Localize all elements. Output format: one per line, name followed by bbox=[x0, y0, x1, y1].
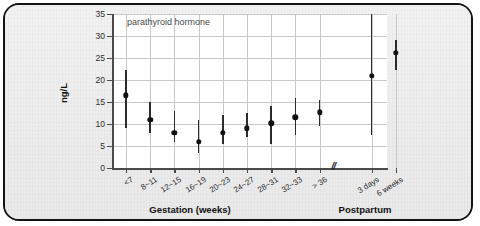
gridline-vertical bbox=[150, 14, 151, 168]
x-axis-tick-label: 6 weeks bbox=[375, 175, 405, 198]
x-axis-tick-label: 24~27 bbox=[232, 175, 256, 195]
gridline-horizontal bbox=[112, 58, 387, 59]
y-axis-tick bbox=[107, 58, 112, 59]
x-axis-tick bbox=[223, 168, 224, 173]
x-axis-tick-label: 20~23 bbox=[208, 175, 232, 195]
x-axis-tick bbox=[372, 168, 373, 173]
y-axis-tick-label: 5 bbox=[79, 141, 105, 151]
y-axis-line bbox=[112, 14, 114, 169]
y-axis-tick bbox=[107, 80, 112, 81]
gridline-horizontal bbox=[112, 146, 387, 147]
y-axis-tick bbox=[107, 146, 112, 147]
gridline-vertical bbox=[271, 14, 272, 168]
x-axis-title-gestation: Gestation (weeks) bbox=[149, 204, 230, 215]
x-axis-tick bbox=[247, 168, 248, 173]
x-axis-tick-label: <7 bbox=[122, 175, 135, 187]
y-axis-tick-label: 10 bbox=[79, 119, 105, 129]
y-axis-tick-label: 0 bbox=[79, 163, 105, 173]
x-axis-tick bbox=[295, 168, 296, 173]
gridline-vertical bbox=[396, 14, 397, 168]
gridline-horizontal bbox=[112, 80, 387, 81]
x-axis-tick bbox=[126, 168, 127, 173]
plot-area bbox=[112, 14, 387, 168]
gridline-horizontal bbox=[112, 102, 387, 103]
y-axis-tick-label: 15 bbox=[79, 97, 105, 107]
y-axis-tick-label: 30 bbox=[79, 31, 105, 41]
figure-frame: 05101520253035 ng/L parathyroid hormone … bbox=[3, 3, 473, 221]
y-axis-tick bbox=[107, 102, 112, 103]
y-axis-tick-label: 20 bbox=[79, 75, 105, 85]
y-axis-tick bbox=[107, 14, 112, 15]
chart-canvas: 05101520253035 ng/L parathyroid hormone … bbox=[5, 5, 473, 221]
gridline-horizontal bbox=[112, 14, 387, 15]
x-axis-tick-label: 28~31 bbox=[256, 175, 280, 195]
x-axis-tick bbox=[271, 168, 272, 173]
error-bar bbox=[174, 111, 176, 142]
x-axis-tick bbox=[174, 168, 175, 173]
gridline-horizontal bbox=[112, 36, 387, 37]
x-axis-tick bbox=[199, 168, 200, 173]
x-axis-tick bbox=[150, 168, 151, 173]
x-axis-tick-label: 16~19 bbox=[184, 175, 208, 195]
y-axis-tick bbox=[107, 36, 112, 37]
x-axis-tick-label: 8~11 bbox=[139, 175, 159, 192]
data-point-marker bbox=[393, 50, 398, 55]
x-axis-title-postpartum: Postpartum bbox=[339, 204, 392, 215]
error-bar bbox=[125, 70, 127, 128]
gridline-vertical bbox=[223, 14, 224, 168]
gridline-vertical bbox=[295, 14, 296, 168]
y-axis-tick-label: 35 bbox=[79, 9, 105, 19]
x-axis-line bbox=[112, 168, 388, 170]
x-axis-tick-label: > 36 bbox=[310, 175, 328, 191]
y-axis-tick-labels: 05101520253035 bbox=[77, 5, 105, 221]
x-axis-tick bbox=[396, 168, 397, 173]
error-bar bbox=[395, 40, 397, 70]
gridline-vertical bbox=[247, 14, 248, 168]
y-axis-tick bbox=[107, 168, 112, 169]
x-axis-tick bbox=[320, 168, 321, 173]
x-axis-tick-label: 12~15 bbox=[159, 175, 183, 195]
chart-title: parathyroid hormone bbox=[127, 17, 210, 27]
error-bar bbox=[198, 120, 200, 153]
gridline-vertical bbox=[320, 14, 321, 168]
gridline-vertical bbox=[174, 14, 175, 168]
x-axis-tick-label: 32~33 bbox=[280, 175, 304, 195]
y-axis-tick-label: 25 bbox=[79, 53, 105, 63]
y-axis-tick bbox=[107, 124, 112, 125]
gridline-horizontal bbox=[112, 124, 387, 125]
y-axis-title: ng/L bbox=[58, 83, 69, 103]
axis-break-icon: // bbox=[331, 160, 335, 172]
